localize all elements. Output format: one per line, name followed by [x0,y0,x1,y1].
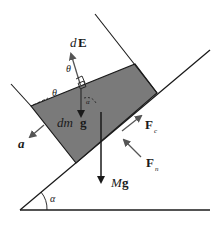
dE-label-E: E [78,35,87,50]
dE-arrow [71,54,81,87]
Mg-label-g: g [122,175,129,190]
a-arrow [30,125,44,137]
alpha-incline-label: α [50,193,56,204]
sliding-block [31,64,157,163]
Fn-arrow [124,140,141,157]
dmg-label-g: g [80,115,87,130]
dmg-label-dm: dm [57,115,73,130]
Fn-label-sub: n [155,165,159,173]
Fc-label-F: F [145,117,153,132]
dE-label-d: d [70,35,77,50]
a-label: a [18,136,25,151]
Fn-label-F: F [146,155,154,170]
incline-angle-arc [41,192,47,210]
Fc-label-sub: c [154,127,158,135]
theta-top-label: θ [66,63,71,74]
alpha-small-label: α [86,98,90,106]
theta-left-label: θ [52,87,57,98]
incline-diagram: d E θ θ α dm g a F c F n M g α [0,0,223,227]
left-wall-line [11,84,31,106]
